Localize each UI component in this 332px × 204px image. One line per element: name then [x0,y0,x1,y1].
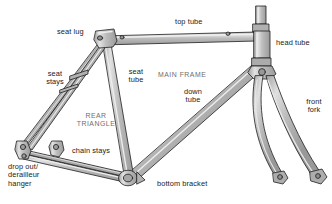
front-fork-shape [253,76,327,184]
label-chain-stays: chain stays [72,147,110,155]
seat-stays-shape [23,43,105,150]
chainstay-dropout-shape [49,141,64,157]
rear-dropout-shape [15,141,31,159]
label-top-tube: top tube [175,18,203,26]
label-seat-stays: seat stays [38,70,72,87]
label-rear-triangle: REAR TRIANGLE [74,112,118,128]
label-down-tube: down tube [178,88,208,105]
label-head-tube: head tube [276,39,310,47]
top-tube-shape [101,32,257,45]
seat-lug-shape [94,29,117,48]
label-seat-tube: seat tube [122,68,150,85]
label-bottom-bracket: bottom bracket [157,180,207,188]
label-front-fork: front fork [300,98,328,115]
label-main-frame: MAIN FRAME [158,71,206,79]
bicycle-frame-diagram: seat lug top tube head tube seat stays s… [0,0,332,204]
frame-illustration [0,0,332,204]
head-tube-shape [252,6,271,66]
label-drop-out-derailleur-hanger: drop out/ derailleur hanger [8,163,39,188]
label-seat-lug: seat lug [57,28,84,36]
